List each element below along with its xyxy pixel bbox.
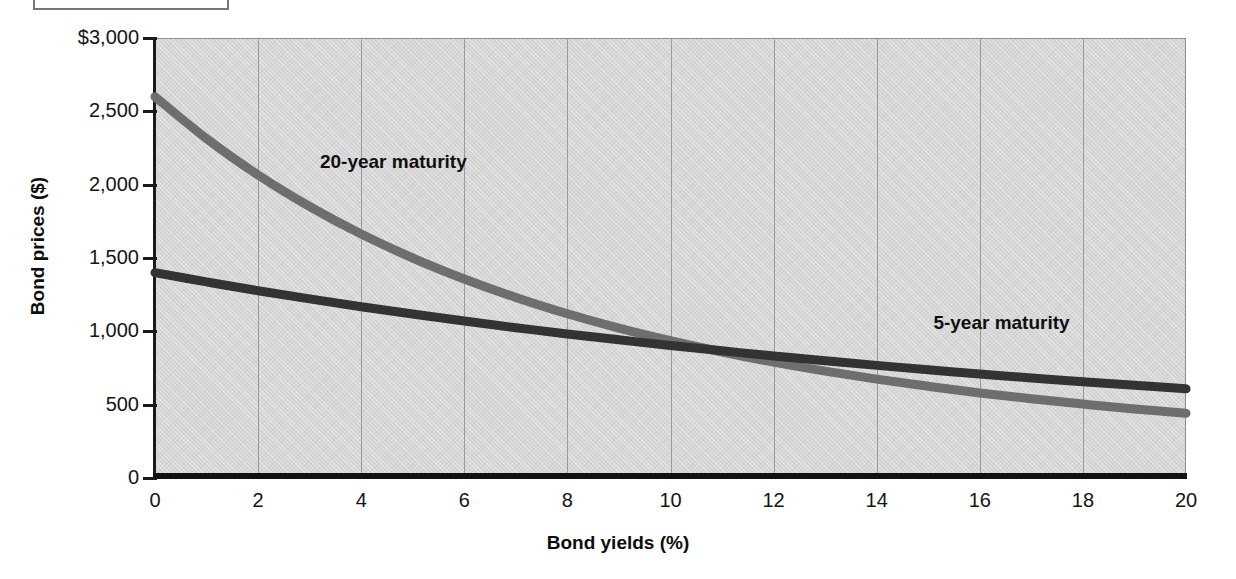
- y-axis-tick: [143, 330, 157, 333]
- x-axis-tick-label: 6: [434, 489, 494, 512]
- x-axis-tick-label: 18: [1053, 489, 1113, 512]
- y-axis-title: Bond prices ($): [27, 146, 49, 346]
- y-axis-tick: [143, 37, 157, 40]
- bond-price-yield-chart: $3,0002,5002,0001,5001,0005000 024681012…: [0, 0, 1236, 579]
- series-curves: [0, 0, 1236, 579]
- y-axis-tick-label: 0: [39, 466, 139, 489]
- series-label-5-year-maturity: 5-year maturity: [933, 312, 1069, 334]
- y-axis-tick: [143, 477, 157, 480]
- x-axis-title: Bond yields (%): [0, 532, 1236, 554]
- y-axis-tick: [143, 257, 157, 260]
- x-axis-tick-label: 12: [744, 489, 804, 512]
- x-axis-tick-label: 4: [331, 489, 391, 512]
- y-axis-tick-label: 1,500: [39, 246, 139, 269]
- y-axis-tick-labels: $3,0002,5002,0001,5001,0005000: [34, 0, 139, 579]
- y-axis-tick-label: $3,000: [39, 26, 139, 49]
- series-label-20-year-maturity: 20-year maturity: [320, 151, 467, 173]
- y-axis-tick: [143, 404, 157, 407]
- curve-20-year-maturity: [155, 97, 1186, 414]
- y-axis-tick-label: 2,000: [39, 173, 139, 196]
- x-axis-tick-label: 14: [847, 489, 907, 512]
- y-axis-tick-label: 2,500: [39, 99, 139, 122]
- y-axis-tick: [143, 110, 157, 113]
- x-axis-tick-label: 8: [537, 489, 597, 512]
- y-axis-tick: [143, 184, 157, 187]
- x-axis-tick-label: 2: [228, 489, 288, 512]
- x-axis-tick-label: 0: [125, 489, 185, 512]
- x-axis-tick-label: 20: [1156, 489, 1216, 512]
- x-axis-tick-label: 16: [950, 489, 1010, 512]
- y-axis-tick-label: 500: [39, 393, 139, 416]
- x-axis-tick-label: 10: [641, 489, 701, 512]
- y-axis-tick-label: 1,000: [39, 319, 139, 342]
